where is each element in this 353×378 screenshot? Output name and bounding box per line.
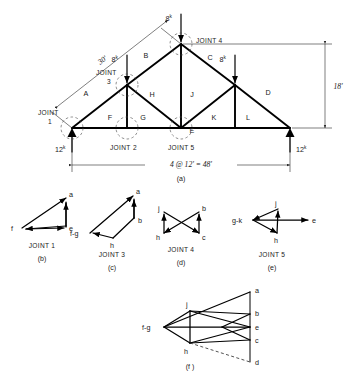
combined-vertex-b: b [255, 309, 259, 318]
dim-label-span: 4 @ 12' = 48' [170, 160, 212, 169]
rafter-right-upper [181, 44, 235, 85]
joint4-vertex-c: c [202, 233, 206, 242]
joint4-polygon-title: JOINT 4 [168, 246, 195, 253]
joint5-edge-gk-h [253, 220, 277, 233]
combined-vertex-j: j [185, 300, 188, 309]
caption-a: (a) [177, 175, 186, 183]
joint3-vertex-a: a [136, 187, 140, 196]
polygon-joint4: j b h c JOINT 4 (d) [156, 204, 206, 267]
joint5-edge-j-gk [253, 209, 278, 220]
caption-c: (c) [108, 264, 116, 272]
space-label-B: B [144, 51, 149, 60]
joint5-vertex-gk: g-k [232, 216, 242, 225]
joint-label-4: JOINT 4 [196, 37, 223, 44]
space-label-H: H [149, 90, 154, 99]
combined-edge-fg-h [164, 327, 190, 343]
load-label-3: 8k [220, 55, 227, 64]
combined-vertex-fg: f-g [142, 323, 150, 332]
figure-sheet: 30' 18' 4 @ 12' = 48' 8k 8k 8k 12k 12k A… [0, 0, 353, 378]
joint3-edge-fg-a [90, 196, 133, 233]
joint-label-1-number: 1 [48, 118, 52, 125]
caption-e: (e) [268, 264, 277, 272]
caption-d: (d) [177, 259, 186, 267]
truss-diagram: 30' 18' 4 @ 12' = 48' 8k 8k 8k 12k 12k A… [38, 14, 343, 183]
joint-label-2: JOINT2 [110, 144, 137, 151]
joint5-polygon-title: JOINT 5 [259, 251, 286, 258]
joint5-edge-h-j [277, 211, 278, 233]
space-label-A: A [84, 89, 89, 98]
joint4-vertex-b: b [202, 204, 206, 213]
combined-vertex-c: c [255, 336, 259, 345]
joint1-edge-f-a [22, 198, 66, 228]
joint5-vertex-h: h [274, 236, 278, 245]
joint4-vertex-h: h [156, 233, 160, 242]
polygon-joint1: a e f JOINT 1 (b) [11, 190, 73, 263]
space-label-L: L [246, 113, 250, 122]
space-label-E: E [190, 126, 195, 135]
load-label-2: 8k [166, 14, 173, 23]
combined-edge-fg-j [164, 311, 190, 327]
rafter-left-lower [72, 85, 127, 128]
joint1-vertex-a: a [69, 190, 73, 199]
polygon-joint5: j g-k h e JOINT 5 (e) [232, 199, 316, 272]
space-label-G: G [140, 113, 146, 122]
joint-label-3-number: 3 [107, 78, 111, 85]
combined-vertex-a: a [255, 286, 259, 295]
combined-vertex-e: e [255, 323, 259, 332]
joint-label-5: JOINT 5 [168, 144, 195, 151]
dim-label-rafter: 30' [95, 53, 109, 67]
combined-edge-fg-a [164, 292, 250, 327]
caption-b: (b) [38, 255, 47, 263]
joint5-vertex-j: j [274, 199, 277, 208]
rafter-right-lower [235, 85, 290, 128]
joint3-vertex-h: h [110, 241, 114, 250]
joint3-edge-h-fg [93, 233, 113, 238]
joint3-vertex-b: b [138, 216, 142, 225]
combined-edge-h-d-dashed [190, 343, 250, 362]
web-diagonal-right [181, 85, 235, 128]
rafter-left-upper [127, 44, 181, 85]
joint5-vertex-e: e [312, 216, 316, 225]
reaction-label-right: 12k [296, 145, 307, 154]
caption-f: (f ) [186, 363, 195, 371]
joint-label-1-name: JOINT [38, 109, 59, 116]
polygon-joint3: a b h f-g JOINT 3 (c) [70, 187, 142, 272]
combined-maxwell-diagram: a b e c d j h f-g (f ) [142, 286, 259, 371]
joint4-vertex-j: j [157, 204, 160, 213]
space-label-F: F [108, 113, 113, 122]
joint-label-3-name: JOINT [96, 69, 117, 76]
space-label-D: D [265, 88, 270, 97]
space-label-C: C [207, 53, 212, 62]
ext-line-rafter-upper [161, 28, 181, 44]
joint3-edge-b-h [113, 218, 134, 238]
dim-label-height: 18' [333, 82, 343, 91]
joint3-polygon-title: JOINT 3 [99, 251, 126, 258]
space-label-J: J [190, 90, 194, 99]
joint3-vertex-fg: f-g [70, 229, 78, 238]
load-label-1: 8k [112, 55, 119, 64]
combined-vertex-d: d [255, 358, 259, 367]
reaction-label-left: 12k [55, 145, 66, 154]
diagram-canvas: 30' 18' 4 @ 12' = 48' 8k 8k 8k 12k 12k A… [0, 0, 353, 378]
joint1-polygon-title: JOINT 1 [29, 242, 56, 249]
space-label-K: K [212, 113, 217, 122]
joint1-vertex-f: f [11, 224, 13, 233]
combined-vertex-h: h [184, 347, 188, 356]
